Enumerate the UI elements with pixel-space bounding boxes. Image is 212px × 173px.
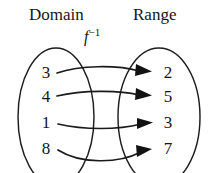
range-value-4: 7	[160, 140, 176, 157]
arrowhead-8-to-7	[136, 145, 152, 157]
domain-value-1: 3	[38, 64, 54, 81]
function-mapping-figure: Domain Range f−1 3 4 1 8 2 5 3 7	[0, 0, 212, 173]
diagram-vector-layer	[0, 0, 212, 173]
range-value-1: 2	[160, 64, 176, 81]
range-set-oval	[118, 48, 200, 173]
domain-value-3: 1	[38, 114, 54, 131]
mapping-arrow-1-to-3	[58, 124, 141, 129]
arrowhead-4-to-5	[135, 88, 152, 100]
domain-set-oval	[18, 48, 94, 173]
range-value-3: 3	[160, 114, 176, 131]
arrowhead-3-to-2	[135, 64, 152, 76]
domain-value-4: 8	[38, 140, 54, 157]
arrowhead-1-to-3	[137, 118, 153, 129]
mapping-arrow-4-to-5	[57, 91, 139, 96]
domain-value-2: 4	[38, 88, 54, 105]
range-value-2: 5	[160, 88, 176, 105]
mapping-arrow-8-to-7	[58, 150, 141, 161]
mapping-arrow-3-to-2	[57, 67, 139, 73]
